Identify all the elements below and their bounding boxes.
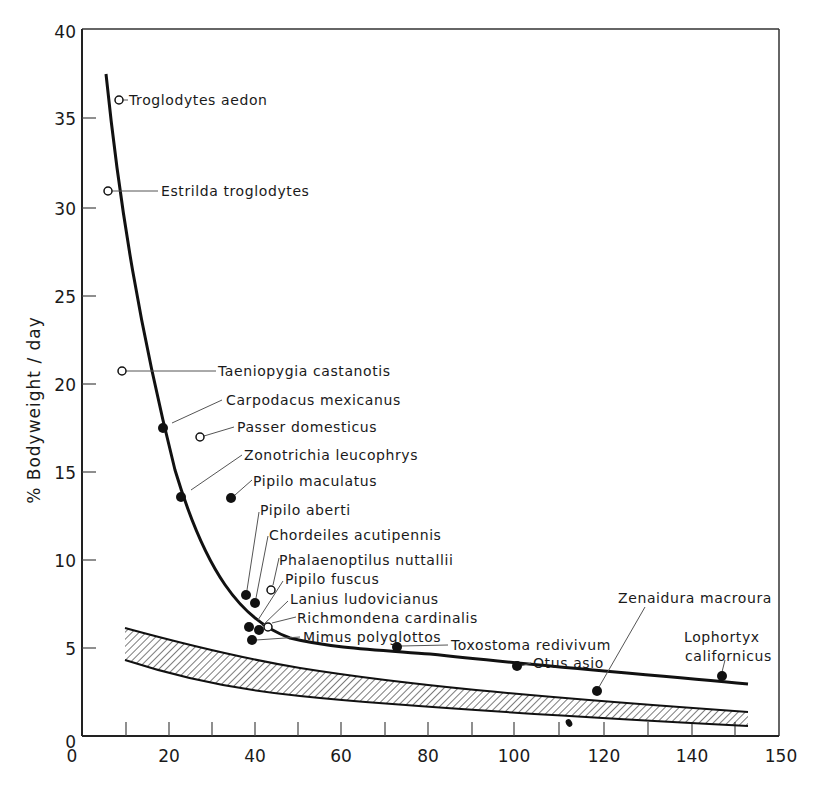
point-chordeiles-acutipennis [250, 598, 260, 608]
x-tick-0: 0 [67, 746, 78, 766]
point-pipilo-aberti [241, 590, 251, 600]
y-tick-20: 20 [54, 375, 76, 395]
chart: 0 5 10 15 20 25 30 35 40 0 20 40 60 80 1… [0, 0, 814, 788]
x-tick-150: 150 [765, 746, 797, 766]
label-estrilda-troglodytes: Estrilda troglodytes [161, 183, 310, 199]
label-pipilo-aberti: Pipilo aberti [260, 502, 351, 518]
y-tick-35: 35 [54, 109, 76, 129]
stray-mark [564, 718, 573, 728]
y-tick-30: 30 [54, 199, 76, 219]
label-pipilo-maculatus: Pipilo maculatus [253, 473, 377, 489]
x-tick-20: 20 [158, 746, 180, 766]
y-tick-15: 15 [54, 463, 76, 483]
point-troglodytes-aedon [115, 96, 123, 104]
label-chordeiles-acutipennis: Chordeiles acutipennis [269, 527, 442, 543]
point-lophortyx-californicus [717, 671, 727, 681]
y-tick-labels: 0 5 10 15 20 25 30 35 40 [54, 22, 76, 752]
point-otus-asio [512, 661, 522, 671]
point-phalaenoptilus-nuttallii [267, 586, 275, 594]
x-ticks [126, 722, 735, 736]
y-tick-10: 10 [54, 551, 76, 571]
point-richmondena-cardinalis [264, 623, 272, 631]
point-zonotrichia-leucophrys [176, 492, 186, 502]
x-tick-140: 140 [676, 746, 708, 766]
x-tick-60: 60 [330, 746, 352, 766]
label-lophortyx-2: californicus [685, 648, 772, 664]
point-lanius-ludovicianus [254, 625, 264, 635]
label-taeniopygia-castanotis: Taeniopygia castanotis [217, 363, 391, 379]
y-ticks [82, 118, 96, 648]
label-toxostoma-redivivum: Toxostoma redivivum [450, 637, 611, 653]
point-zenaidura-macroura [592, 686, 602, 696]
label-lanius-ludovicianus: Lanius ludovicianus [290, 591, 439, 607]
label-zenaidura-macroura: Zenaidura macroura [618, 590, 772, 606]
label-troglodytes-aedon: Troglodytes aedon [128, 92, 268, 108]
label-phalaenoptilus-nuttallii: Phalaenoptilus nuttallii [279, 552, 453, 568]
label-richmondena-cardinalis: Richmondena cardinalis [297, 610, 478, 626]
x-tick-120: 120 [588, 746, 620, 766]
label-zonotrichia-leucophrys: Zonotrichia leucophrys [244, 447, 418, 463]
label-passer-domesticus: Passer domesticus [237, 419, 377, 435]
point-estrilda-troglodytes [104, 187, 112, 195]
point-carpodacus-mexicanus [158, 423, 168, 433]
label-otus-asio: Otus asio [533, 655, 604, 671]
y-tick-25: 25 [54, 287, 76, 307]
y-tick-40: 40 [54, 22, 76, 42]
point-taeniopygia-castanotis [118, 367, 126, 375]
label-pipilo-fuscus: Pipilo fuscus [285, 571, 379, 587]
y-axis-title: % Bodyweight / day [24, 316, 44, 504]
point-passer-domesticus [196, 433, 204, 441]
x-tick-labels: 0 20 40 60 80 100 120 140 150 [67, 746, 798, 766]
label-lophortyx-1: Lophortyx [684, 629, 760, 645]
label-mimus-polyglottos: Mimus polyglottos [303, 629, 441, 645]
point-mimus-polyglottos [247, 635, 257, 645]
x-tick-100: 100 [498, 746, 530, 766]
label-carpodacus-mexicanus: Carpodacus mexicanus [226, 392, 401, 408]
x-tick-80: 80 [417, 746, 439, 766]
x-tick-40: 40 [244, 746, 266, 766]
point-pipilo-fuscus [244, 622, 254, 632]
y-tick-5: 5 [65, 639, 76, 659]
point-pipilo-maculatus [226, 493, 236, 503]
